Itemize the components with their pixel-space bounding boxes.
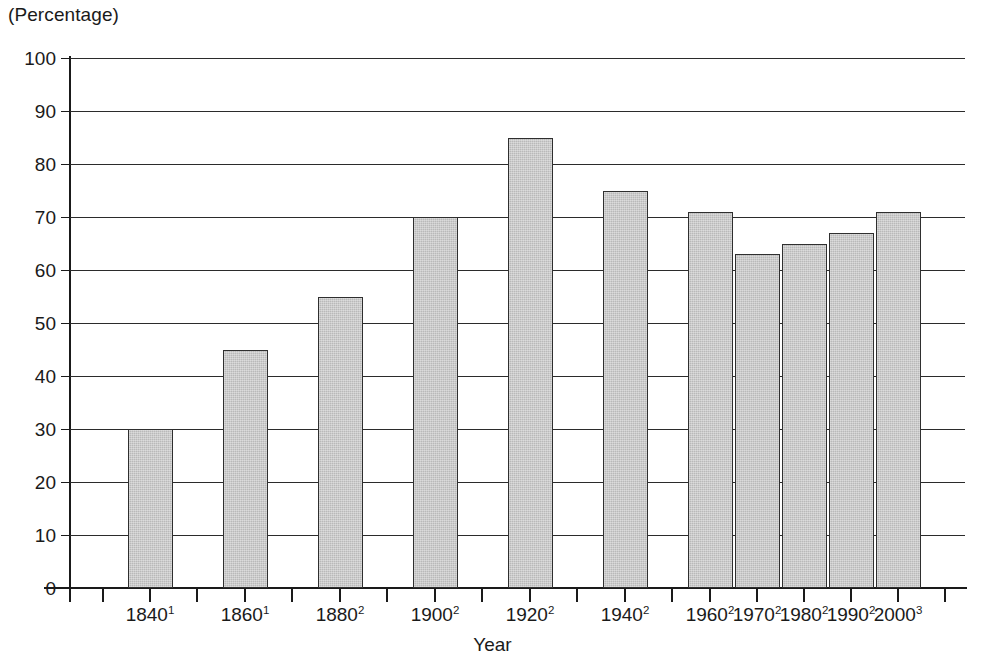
bar — [508, 138, 553, 589]
bar — [318, 297, 363, 589]
plot-area — [70, 58, 965, 588]
bar — [128, 429, 173, 588]
x-tick-mark — [529, 589, 531, 602]
x-tick-mark — [756, 589, 758, 602]
y-tick-label: 40 — [8, 367, 56, 386]
y-tick-mark — [61, 111, 70, 112]
x-tick-mark — [803, 589, 805, 602]
gridline — [70, 58, 965, 59]
y-tick-label: 30 — [8, 420, 56, 439]
x-tick-label: 18802 — [316, 604, 365, 626]
y-tick-mark — [61, 164, 70, 165]
x-tick-mark — [709, 589, 711, 602]
y-tick-mark — [61, 270, 70, 271]
y-tick-mark — [61, 217, 70, 218]
x-tick-mark — [69, 589, 71, 602]
bar — [829, 233, 874, 588]
x-tick-label: 18401 — [126, 604, 175, 626]
x-tick-mark — [291, 589, 293, 602]
y-axis-unit-label: (Percentage) — [8, 4, 119, 26]
y-tick-mark — [61, 376, 70, 377]
x-tick-label: 19002 — [411, 604, 460, 626]
y-tick-mark — [61, 323, 70, 324]
x-tick-mark — [944, 589, 946, 602]
bar — [876, 212, 921, 588]
y-tick-label: 0 — [8, 579, 56, 598]
x-tick-mark — [481, 589, 483, 602]
y-tick-label: 50 — [8, 314, 56, 333]
y-tick-label: 90 — [8, 102, 56, 121]
y-tick-mark — [61, 429, 70, 430]
x-tick-mark — [897, 589, 899, 602]
x-tick-label: 18601 — [221, 604, 270, 626]
x-tick-label: 19602 — [686, 604, 735, 626]
y-tick-mark — [61, 58, 70, 59]
y-tick-label: 80 — [8, 155, 56, 174]
x-tick-mark — [339, 589, 341, 602]
x-tick-label: 19202 — [506, 604, 555, 626]
y-tick-label: 20 — [8, 473, 56, 492]
x-tick-mark — [624, 589, 626, 602]
x-tick-label: 20003 — [874, 604, 923, 626]
x-tick-mark — [850, 589, 852, 602]
x-tick-mark — [386, 589, 388, 602]
x-tick-mark — [671, 589, 673, 602]
x-tick-label: 19802 — [780, 604, 829, 626]
x-tick-label: 19902 — [827, 604, 876, 626]
gridline — [70, 111, 965, 112]
bar — [782, 244, 827, 589]
x-tick-mark — [102, 589, 104, 602]
y-tick-label: 100 — [8, 49, 56, 68]
x-tick-label: 19402 — [601, 604, 650, 626]
bar — [688, 212, 733, 588]
bar — [413, 217, 458, 588]
x-tick-mark — [434, 589, 436, 602]
bar — [223, 350, 268, 589]
y-tick-label: 60 — [8, 261, 56, 280]
x-tick-mark — [149, 589, 151, 602]
y-tick-label: 10 — [8, 526, 56, 545]
y-tick-mark — [61, 535, 70, 536]
bar — [735, 254, 780, 588]
bar-chart: (Percentage) 1009080706050403020100 1840… — [0, 0, 985, 668]
x-tick-mark — [576, 589, 578, 602]
y-tick-label: 70 — [8, 208, 56, 227]
x-axis-title: Year — [0, 634, 985, 656]
x-tick-mark — [196, 589, 198, 602]
bar — [603, 191, 648, 589]
y-tick-mark — [61, 482, 70, 483]
x-tick-mark — [244, 589, 246, 602]
x-tick-label: 19702 — [733, 604, 782, 626]
